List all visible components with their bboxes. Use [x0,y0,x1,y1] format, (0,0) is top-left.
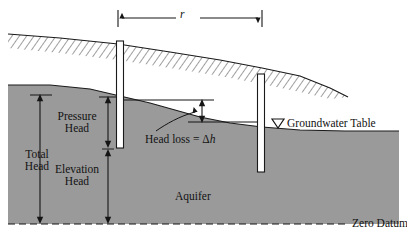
observation-well-right [258,74,265,172]
label-elevation-head-line1: Elevation [44,163,110,175]
groundwater-table-symbol-group [272,119,284,128]
label-zero-datum: Zero Datum [352,217,407,229]
label-head-loss-delta: Δ [202,133,209,145]
label-elevation-head-line2: Head [44,175,110,187]
label-pressure-head: Pressure Head [46,110,108,135]
label-head-loss-prefix: Head loss = [145,133,202,145]
groundwater-head-diagram: r Total Head Pressure Head Elevation Hea… [0,0,407,242]
label-aquifer: Aquifer [175,190,211,202]
label-pressure-head-line2: Head [46,122,108,134]
observation-well-left [117,41,124,148]
groundwater-table-triangle-icon [272,119,284,128]
label-elevation-head: Elevation Head [44,163,110,188]
label-head-loss-h: h [210,133,216,145]
label-head-loss: Head loss = Δh [145,133,215,145]
label-total-head-line1: Total [8,148,66,160]
dimension-label-r: r [180,8,184,20]
dimension-r [118,10,262,27]
label-pressure-head-line1: Pressure [46,110,108,122]
label-groundwater-table: Groundwater Table [287,117,376,129]
